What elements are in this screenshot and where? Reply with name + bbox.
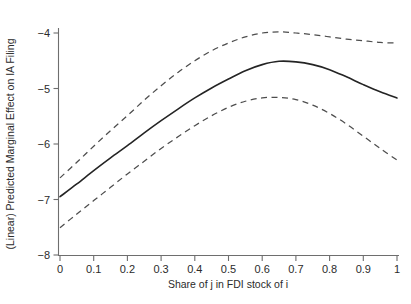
- y-axis-tick-label: −8: [37, 249, 50, 261]
- x-axis-tick-label: 0.7: [288, 263, 303, 275]
- y-axis-title: (Linear) Predicted Marginal Effect on IA…: [4, 38, 16, 249]
- y-axis-tick-label: −4: [37, 27, 50, 39]
- y-axis-tick-label: −6: [37, 138, 50, 150]
- x-axis-tick-label: 0.9: [356, 263, 371, 275]
- chart-figure: −4−5−6−7−8 00.10.20.30.40.50.60.70.80.91…: [0, 0, 411, 304]
- x-axis-tick-label: 0.4: [187, 263, 202, 275]
- y-axis-tick-label: −7: [37, 194, 50, 206]
- x-axis-title: Share of j in FDI stock of i: [168, 278, 288, 290]
- x-axis-tick-label: 0.2: [120, 263, 135, 275]
- x-axis-tick-label: 0.5: [221, 263, 236, 275]
- x-axis-tick-label: 1: [394, 263, 400, 275]
- x-axis-tick-label: 0.6: [255, 263, 270, 275]
- marginal-effect-line-chart: −4−5−6−7−8 00.10.20.30.40.50.60.70.80.91…: [0, 0, 411, 304]
- x-axis-tick-label: 0: [57, 263, 63, 275]
- x-axis-tick-label: 0.3: [153, 263, 168, 275]
- chart-background: [0, 0, 411, 304]
- y-axis-tick-label: −5: [37, 83, 50, 95]
- x-axis-tick-label: 0.8: [322, 263, 337, 275]
- x-axis-tick-label: 0.1: [86, 263, 101, 275]
